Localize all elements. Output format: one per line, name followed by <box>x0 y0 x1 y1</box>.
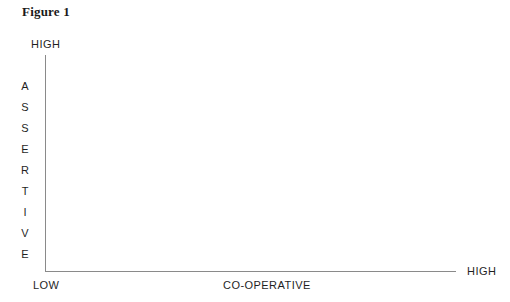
y-axis-title-letter: V <box>21 223 28 244</box>
x-axis-title: CO-OPERATIVE <box>223 279 311 292</box>
x-axis-line <box>45 271 456 272</box>
y-axis-title: A S S E R T I V E <box>19 76 31 265</box>
figure-canvas: Figure 1 HIGH A S S E R T I V E LOW CO-O… <box>0 0 510 302</box>
y-axis-line <box>45 55 46 272</box>
y-axis-title-letter: I <box>23 202 26 223</box>
y-axis-title-letter: T <box>22 181 29 202</box>
y-axis-title-letter: E <box>21 139 28 160</box>
y-axis-title-letter: S <box>21 118 28 139</box>
y-axis-title-letter: S <box>21 97 28 118</box>
x-axis-high-label: HIGH <box>467 265 496 278</box>
y-axis-title-letter: E <box>21 244 28 265</box>
y-axis-high-label: HIGH <box>31 38 60 51</box>
y-axis-title-letter: R <box>21 160 29 181</box>
x-axis-low-label: LOW <box>33 279 59 292</box>
figure-title: Figure 1 <box>22 4 70 20</box>
y-axis-title-letter: A <box>21 76 28 97</box>
